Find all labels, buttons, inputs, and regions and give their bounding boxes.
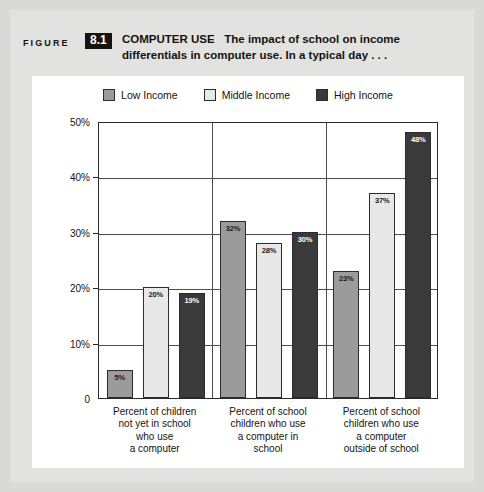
figure-title-line2: differentials in computer use. In a typi… <box>122 49 387 61</box>
legend-swatch-icon <box>103 89 115 101</box>
bar-value-label: 37% <box>370 196 394 205</box>
bar-value-label: 30% <box>293 235 317 244</box>
x-axis-label-line: children who use <box>325 418 438 430</box>
x-axis-label-line: not yet in school <box>98 418 211 430</box>
bar: 28% <box>256 243 282 398</box>
figure-number-badge: 8.1 <box>85 33 112 49</box>
y-axis-tick-label: 40% <box>32 172 90 183</box>
legend-label: Low Income <box>121 89 178 101</box>
x-axis-label-line: a computer <box>325 431 438 443</box>
x-axis-label: Percent of childrennot yet in schoolwho … <box>98 406 211 456</box>
bar: 23% <box>333 271 359 398</box>
x-axis-label-line: Percent of school <box>211 406 324 418</box>
x-axis-label-line: a computer in <box>211 431 324 443</box>
bar: 20% <box>143 287 169 398</box>
bars-layer: 5%20%19%32%28%30%23%37%48% <box>99 123 437 398</box>
y-axis-tick-label: 30% <box>32 227 90 238</box>
bar-value-label: 28% <box>257 246 281 255</box>
figure-header: FIGURE 8.1 COMPUTER USE The impact of sc… <box>23 32 463 80</box>
bar-value-label: 48% <box>406 135 430 144</box>
legend-label: High Income <box>334 89 393 101</box>
x-axis-label-line: Percent of children <box>98 406 211 418</box>
x-axis-label-line: school <box>211 443 324 455</box>
chart-legend: Low IncomeMiddle IncomeHigh Income <box>32 89 464 101</box>
bar: 32% <box>220 221 246 398</box>
plot-area: 5%20%19%32%28%30%23%37%48% <box>98 122 438 399</box>
y-axis-tick-label: 10% <box>32 338 90 349</box>
page-background: FIGURE 8.1 COMPUTER USE The impact of sc… <box>0 0 484 492</box>
bar-value-label: 20% <box>144 290 168 299</box>
legend-item: Middle Income <box>204 89 290 101</box>
x-axis-label: Percent of schoolchildren who usea compu… <box>211 406 324 456</box>
legend-item: High Income <box>316 89 393 101</box>
bar-value-label: 19% <box>180 296 204 305</box>
y-axis-tick-label: 50% <box>32 117 90 128</box>
figure-panel: FIGURE 8.1 COMPUTER USE The impact of sc… <box>10 10 474 482</box>
bar-value-label: 5% <box>108 373 132 382</box>
plot-wrapper: 010%20%30%40%50% 5%20%19%32%28%30%23%37%… <box>32 116 464 466</box>
figure-title-keyword: COMPUTER USE <box>122 33 215 45</box>
legend-item: Low Income <box>103 89 178 101</box>
chart-card: Low IncomeMiddle IncomeHigh Income 010%2… <box>32 76 464 468</box>
x-axis-label-line: children who use <box>211 418 324 430</box>
x-axis-label-line: Percent of school <box>325 406 438 418</box>
x-axis-label: Percent of schoolchildren who usea compu… <box>325 406 438 456</box>
x-axis-label-line: outside of school <box>325 443 438 455</box>
figure-label: FIGURE <box>23 38 70 48</box>
legend-swatch-icon <box>204 89 216 101</box>
bar: 48% <box>405 132 431 398</box>
bar: 19% <box>179 293 205 398</box>
y-axis-tick-label: 20% <box>32 283 90 294</box>
x-axis-label-line: a computer <box>98 443 211 455</box>
x-axis-label-line: who use <box>98 431 211 443</box>
legend-swatch-icon <box>316 89 328 101</box>
bar: 5% <box>107 370 133 398</box>
figure-title-line1: The impact of school on income <box>224 33 400 45</box>
bar-value-label: 32% <box>221 224 245 233</box>
legend-label: Middle Income <box>222 89 290 101</box>
figure-title: COMPUTER USE The impact of school on inc… <box>122 32 467 63</box>
bar-value-label: 23% <box>334 274 358 283</box>
bar: 30% <box>292 232 318 398</box>
y-axis-tick-label: 0 <box>32 394 90 405</box>
bar: 37% <box>369 193 395 398</box>
